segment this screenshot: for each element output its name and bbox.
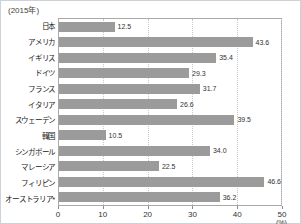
value-label: 43.6	[256, 39, 270, 46]
category-label: フィリピン	[2, 175, 55, 191]
bar-chart-plot-area: 12.543.635.429.331.726.639.510.534.022.5…	[58, 18, 282, 206]
category-label: 韓国	[2, 128, 55, 144]
x-axis-tick-label: 0	[56, 210, 60, 219]
chart-row: 35.4	[59, 50, 281, 66]
bar	[59, 37, 253, 47]
chart-row: 34.0	[59, 143, 281, 159]
category-label: シンガポール	[2, 143, 55, 159]
bar	[59, 99, 177, 109]
chart-row: 36.2	[59, 190, 281, 206]
bar	[59, 84, 200, 94]
year-label: (2015年)	[8, 4, 39, 15]
category-label: フランス	[2, 81, 55, 97]
bar	[59, 115, 234, 125]
category-label: イタリア	[2, 96, 55, 112]
bar	[59, 68, 189, 78]
chart-row: 26.6	[59, 97, 281, 113]
value-label: 46.6	[267, 178, 281, 185]
category-label: オーストラリア*	[2, 190, 55, 206]
chart-row: 46.6	[59, 174, 281, 190]
x-axis-tick-label: 40	[233, 210, 242, 219]
category-label: イギリス	[2, 49, 55, 65]
x-axis-tick-label: 50	[278, 210, 287, 219]
chart-row: 22.5	[59, 159, 281, 175]
bar	[59, 161, 159, 171]
bar	[59, 53, 216, 63]
gridline	[281, 19, 282, 205]
x-axis-tick	[282, 206, 283, 209]
chart-row: 43.6	[59, 35, 281, 51]
x-axis-tick	[192, 206, 193, 209]
chart-row: 10.5	[59, 128, 281, 144]
x-axis: (%) 01020304050	[58, 207, 282, 223]
bar	[59, 192, 220, 202]
bar	[59, 130, 106, 140]
chart-frame: (2015年) 日本アメリカイギリスドイツフランスイタリアスウェーデン韓国シンガ…	[0, 0, 301, 224]
bar-rows: 12.543.635.429.331.726.639.510.534.022.5…	[59, 19, 281, 205]
value-label: 34.0	[213, 147, 227, 154]
value-label: 22.5	[162, 163, 176, 170]
value-label: 29.3	[192, 70, 206, 77]
x-axis-tick	[237, 206, 238, 209]
value-label: 35.4	[219, 54, 233, 61]
category-labels: 日本アメリカイギリスドイツフランスイタリアスウェーデン韓国シンガポールマレーシア…	[2, 18, 55, 206]
chart-row: 31.7	[59, 81, 281, 97]
chart-row: 12.5	[59, 19, 281, 35]
category-label: アメリカ	[2, 34, 55, 50]
value-label: 39.5	[237, 116, 251, 123]
chart-row: 29.3	[59, 66, 281, 82]
value-label: 10.5	[109, 132, 123, 139]
value-label: 26.6	[180, 101, 194, 108]
value-label: 12.5	[118, 23, 132, 30]
unit-label: (%)	[276, 219, 287, 224]
x-axis-tick-label: 20	[143, 210, 152, 219]
bar	[59, 22, 115, 32]
x-axis-tick-label: 30	[188, 210, 197, 219]
category-label: 日本	[2, 18, 55, 34]
value-label: 36.2	[223, 194, 237, 201]
x-axis-tick	[58, 206, 59, 209]
value-label: 31.7	[203, 85, 217, 92]
bar	[59, 177, 264, 187]
category-label: ドイツ	[2, 65, 55, 81]
x-axis-tick	[148, 206, 149, 209]
chart-row: 39.5	[59, 112, 281, 128]
x-axis-tick	[103, 206, 104, 209]
x-axis-tick-label: 10	[98, 210, 107, 219]
category-label: マレーシア	[2, 159, 55, 175]
category-label: スウェーデン	[2, 112, 55, 128]
bar	[59, 146, 210, 156]
